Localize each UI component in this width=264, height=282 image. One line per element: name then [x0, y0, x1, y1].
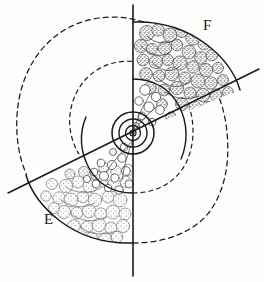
- diagram-svg: [0, 0, 264, 282]
- region-label-E: E: [44, 211, 54, 228]
- region-label-F: F: [203, 17, 212, 34]
- figure-canvas: F E: [0, 0, 264, 282]
